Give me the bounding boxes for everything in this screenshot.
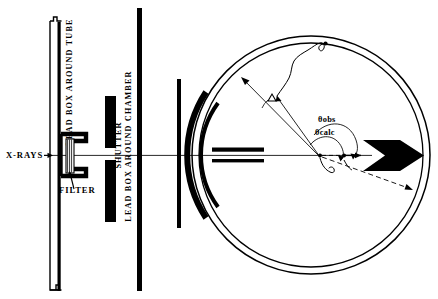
theta-obs-label: θobs: [318, 115, 336, 124]
filter-label: FILTER: [59, 185, 96, 195]
collimator-bar-upper: [212, 148, 264, 152]
scatter-connector-shaft: [277, 97, 320, 157]
filter: [66, 139, 74, 173]
theta-calc-arc: [310, 137, 343, 160]
shutter-label: SHUTTER: [114, 121, 123, 168]
scattered-ray-lower-arrowhead: [405, 184, 414, 190]
scattering-vertex: [318, 153, 322, 157]
chamber-collimator-slit: [212, 148, 264, 163]
lead-box-around-chamber-label: LEAD BOX AROUND CHAMBER: [124, 70, 133, 221]
theta-calc-label: θcalc: [315, 128, 335, 137]
scattered-ray-upper: [241, 77, 318, 155]
scatter-connector-ray: [276, 96, 321, 158]
collimator-bar-lower: [212, 159, 264, 162]
secondary-vertex: [342, 153, 346, 157]
electron-track-path: [277, 43, 324, 96]
angle-theta-calc: [310, 137, 344, 162]
electron-track-endpoint: [323, 41, 327, 45]
diagram-canvas: LEAD BOX AROUND CHAMBER SHUTTER LEAD BOX…: [0, 0, 438, 299]
xrays-label: X-RAYS: [6, 150, 43, 160]
xrays-arrow: [44, 153, 53, 158]
scattered-ray-upper-shaft: [242, 78, 318, 155]
electron-track: [277, 41, 328, 96]
apparatus-diagram: LEAD BOX AROUND CHAMBER SHUTTER LEAD BOX…: [0, 0, 438, 299]
collimator-wall: [177, 79, 181, 228]
lead-box-around-chamber-wall: [137, 8, 142, 291]
lead-box-tube-bracket-spine: [60, 134, 63, 176]
recoil-track-branch: [344, 160, 352, 170]
beam-stop-wedge-body: [363, 140, 424, 171]
delta-triangle-glyph: [268, 94, 276, 101]
recoil-track: [320, 158, 352, 173]
lead-box-around-tube-label: LEAD BOX AROUND TUBE: [65, 18, 74, 145]
lead-box-tube-top-notch: [50, 17, 62, 21]
